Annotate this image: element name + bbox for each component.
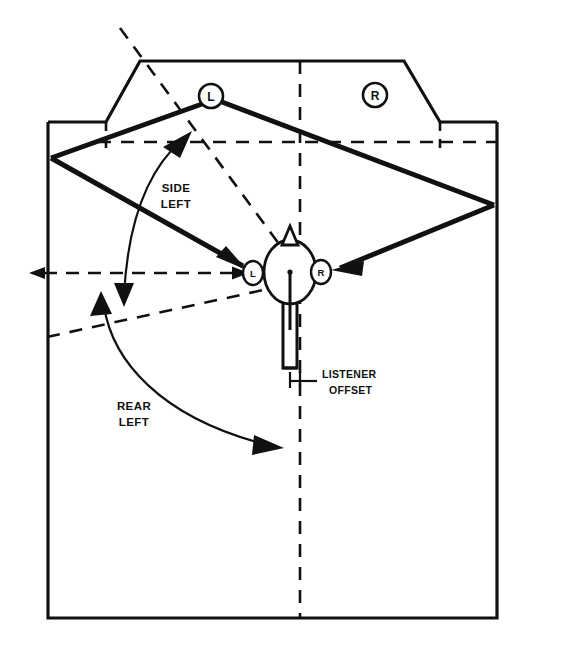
speaker-front-right[interactable]: R <box>363 83 387 107</box>
listener-nose-icon <box>282 226 298 245</box>
rear-left-angle-label: REAR LEFT <box>117 400 151 428</box>
side-left-angle-label: SIDE LEFT <box>161 182 191 210</box>
listener-offset-callout <box>290 372 317 388</box>
rear-left-boundary-ray <box>47 287 277 337</box>
listener-ear-right: R <box>311 260 331 284</box>
speaker-front-right-label: R <box>371 89 380 103</box>
rear-left-arc-arrowhead-upper <box>90 291 112 316</box>
rear-left-arc-arrowhead-lower <box>252 435 284 455</box>
listener-ear-right-label: R <box>318 267 325 278</box>
listener-offset-label-line1: LISTENER <box>322 368 376 380</box>
rear-left-label-line1: REAR <box>117 400 151 412</box>
side-left-label-line1: SIDE <box>162 182 190 194</box>
speaker-front-left-label: L <box>207 90 214 104</box>
side-left-arc-arrowhead-lower <box>114 283 134 307</box>
listener-offset-label-line2: OFFSET <box>329 384 373 396</box>
listener-figure[interactable]: L R <box>243 226 331 368</box>
listener-offset-label: LISTENER OFFSET <box>322 368 376 396</box>
listening-room-outline <box>48 61 497 618</box>
diagram-canvas: L R L <box>0 0 575 645</box>
side-left-label-line2: LEFT <box>161 198 191 210</box>
listener-ear-left-label: L <box>250 268 256 279</box>
speaker-placement-diagram: L R L <box>0 0 575 645</box>
left-ear-incoming-arrowhead <box>216 246 247 270</box>
listener-ear-left: L <box>243 261 263 285</box>
rear-left-label-line2: LEFT <box>119 416 149 428</box>
listener-center-point <box>287 269 292 274</box>
speaker-sound-paths <box>51 102 494 268</box>
ear-axis-arrowhead <box>29 267 45 279</box>
speaker-front-left[interactable]: L <box>199 84 223 108</box>
